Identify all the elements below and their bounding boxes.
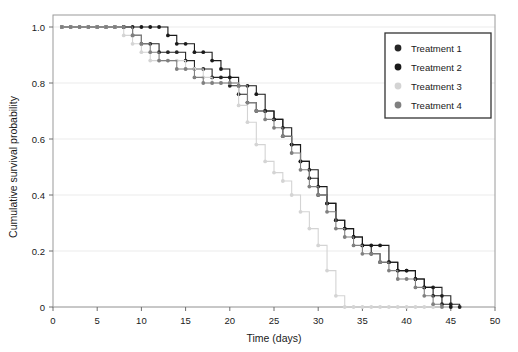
data-point <box>184 67 188 71</box>
legend-marker-icon <box>395 45 402 52</box>
data-point <box>414 305 418 309</box>
x-tick-label: 20 <box>225 315 236 326</box>
survival-chart: 05101520253035404550 00.20.40.60.81.0 Ti… <box>0 0 518 352</box>
data-point <box>414 286 418 290</box>
data-point <box>140 50 144 54</box>
x-tick-label: 15 <box>180 315 191 326</box>
data-point <box>405 269 409 273</box>
data-point <box>228 76 232 80</box>
data-point <box>281 179 285 183</box>
data-point <box>307 227 311 231</box>
data-point <box>352 305 356 309</box>
data-point <box>290 193 294 197</box>
data-point <box>219 67 223 71</box>
data-point <box>246 101 250 105</box>
data-point <box>387 305 391 309</box>
data-point <box>422 305 426 309</box>
data-point <box>175 42 179 46</box>
legend-label[interactable]: Treatment 2 <box>411 62 462 73</box>
x-axis-label: Time (days) <box>246 332 301 344</box>
data-point <box>148 50 152 54</box>
data-point <box>334 294 338 298</box>
data-point <box>175 50 179 54</box>
data-point <box>193 50 197 54</box>
data-point <box>228 81 232 85</box>
x-tick-label: 5 <box>95 315 100 326</box>
y-tick-label: 0.8 <box>32 78 45 89</box>
data-point <box>157 59 161 63</box>
data-point <box>60 25 64 29</box>
data-point <box>396 277 400 281</box>
data-point <box>113 25 117 29</box>
data-point <box>219 76 223 80</box>
data-point <box>405 305 409 309</box>
data-point <box>369 252 373 256</box>
data-point <box>378 260 382 264</box>
data-point <box>290 151 294 155</box>
data-point <box>184 42 188 46</box>
data-point <box>201 81 205 85</box>
data-point <box>272 171 276 175</box>
data-point <box>69 25 73 29</box>
data-point <box>343 305 347 309</box>
data-point <box>361 305 365 309</box>
data-point <box>148 59 152 63</box>
legend-label[interactable]: Treatment 3 <box>411 81 462 92</box>
data-point <box>378 305 382 309</box>
data-point <box>281 134 285 138</box>
y-tick-label: 0.6 <box>32 134 45 145</box>
x-tick-label: 40 <box>401 315 412 326</box>
y-tick-label: 0 <box>40 302 45 313</box>
data-point <box>104 25 108 29</box>
data-point <box>440 305 444 309</box>
data-point <box>166 50 170 54</box>
data-point <box>157 25 161 29</box>
x-tick-label: 35 <box>357 315 368 326</box>
data-point <box>334 227 338 231</box>
data-point <box>148 25 152 29</box>
legend-marker-icon <box>395 83 402 90</box>
legend-label[interactable]: Treatment 4 <box>411 100 462 111</box>
data-point <box>254 92 258 96</box>
y-axis-label: Cumulative survival probability <box>7 95 19 238</box>
x-tick-label: 30 <box>313 315 324 326</box>
data-point <box>175 67 179 71</box>
data-point <box>361 252 365 256</box>
data-point <box>166 34 170 38</box>
data-point <box>210 59 214 63</box>
data-point <box>307 185 311 189</box>
data-point <box>325 210 329 214</box>
data-point <box>387 269 391 273</box>
data-point <box>122 34 126 38</box>
data-point <box>131 34 135 38</box>
data-point <box>193 76 197 80</box>
data-point <box>86 25 90 29</box>
data-point <box>95 25 99 29</box>
data-point <box>343 235 347 239</box>
data-point <box>122 25 126 29</box>
legend-marker-icon <box>395 102 402 109</box>
chart-canvas: 05101520253035404550 00.20.40.60.81.0 Ti… <box>0 0 518 352</box>
y-tick-label: 0.2 <box>32 246 45 257</box>
data-point <box>254 109 258 113</box>
data-point <box>325 269 329 273</box>
data-point <box>378 244 382 248</box>
data-point <box>201 50 205 54</box>
legend[interactable]: Treatment 1Treatment 2Treatment 3Treatme… <box>385 33 491 118</box>
data-point <box>246 120 250 124</box>
data-point <box>316 193 320 197</box>
x-tick-label: 25 <box>269 315 280 326</box>
data-point <box>369 244 373 248</box>
x-tick-label: 50 <box>490 315 501 326</box>
data-point <box>210 81 214 85</box>
x-tick-label: 0 <box>50 315 55 326</box>
legend-marker-icon <box>395 64 402 71</box>
data-point <box>237 84 241 88</box>
data-point <box>458 305 462 309</box>
x-tick-label: 10 <box>136 315 147 326</box>
data-point <box>316 244 320 248</box>
data-point <box>166 59 170 63</box>
legend-label[interactable]: Treatment 1 <box>411 43 462 54</box>
data-point <box>272 126 276 130</box>
data-point <box>131 42 135 46</box>
